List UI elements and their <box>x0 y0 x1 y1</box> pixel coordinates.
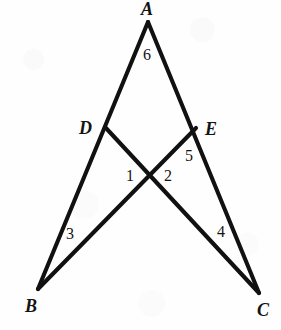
vertex-label-E: E <box>205 120 217 138</box>
vertex-label-C: C <box>257 301 269 319</box>
vertex-label-A: A <box>141 0 153 18</box>
segment-DC <box>105 127 259 293</box>
vertex-label-D: D <box>79 119 92 137</box>
geometry-figure: A D E B C 6 5 1 2 3 4 <box>0 0 281 330</box>
angle-label-5: 5 <box>185 148 193 164</box>
segment-EB <box>38 128 196 289</box>
vertex-label-B: B <box>25 297 37 315</box>
angle-label-3: 3 <box>66 226 74 242</box>
angle-label-2: 2 <box>164 168 172 184</box>
figure-canvas <box>0 0 281 330</box>
angle-label-6: 6 <box>143 47 151 63</box>
angle-label-1: 1 <box>126 168 134 184</box>
angle-label-4: 4 <box>217 224 225 240</box>
